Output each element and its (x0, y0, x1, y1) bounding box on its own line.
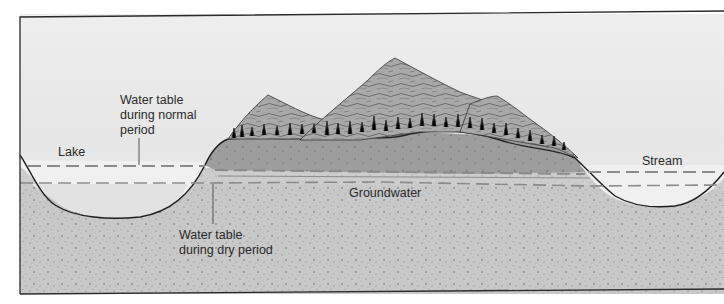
diagram-illustration (0, 0, 724, 304)
label-water-table-dry-line2: during dry period (179, 243, 273, 258)
label-water-table-normal: Water table during normal period (120, 93, 196, 138)
label-water-table-normal-line2: during normal (120, 108, 196, 123)
label-stream: Stream (642, 154, 682, 169)
label-water-table-normal-line1: Water table (120, 93, 196, 108)
label-water-table-dry: Water table during dry period (179, 228, 273, 258)
label-groundwater: Groundwater (349, 186, 421, 201)
label-water-table-dry-line1: Water table (179, 228, 273, 243)
label-lake: Lake (58, 145, 85, 160)
groundwater-diagram: Water table during normal period Lake St… (0, 0, 724, 304)
label-water-table-normal-line3: period (120, 123, 196, 138)
